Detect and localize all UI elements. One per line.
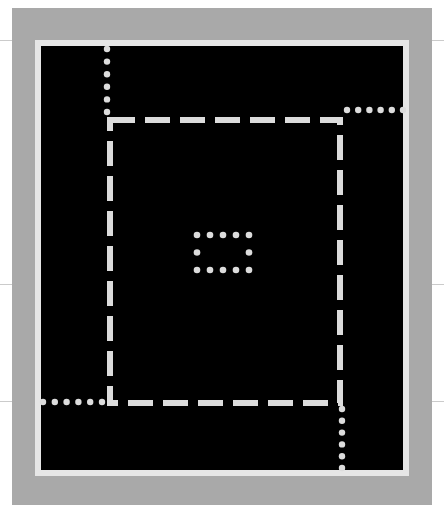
dot xyxy=(104,58,110,64)
dot xyxy=(104,96,110,102)
dot xyxy=(104,84,110,90)
diagram-svg xyxy=(0,0,444,513)
dot xyxy=(246,249,253,256)
dot xyxy=(87,399,93,405)
dot xyxy=(104,71,110,77)
dot xyxy=(339,441,345,447)
dot xyxy=(220,232,227,239)
dot xyxy=(194,267,201,274)
dot xyxy=(366,107,372,113)
dot xyxy=(233,232,240,239)
dot xyxy=(63,399,69,405)
dot xyxy=(389,107,395,113)
dot xyxy=(194,232,201,239)
dot xyxy=(377,107,383,113)
diagram-canvas xyxy=(0,0,444,513)
dot xyxy=(339,418,345,424)
dot xyxy=(339,465,345,471)
dot xyxy=(220,267,227,274)
dot xyxy=(52,399,58,405)
dot xyxy=(344,107,350,113)
dot xyxy=(40,399,46,405)
dot xyxy=(233,267,240,274)
dot xyxy=(99,399,105,405)
dot xyxy=(104,46,110,52)
dot xyxy=(194,249,201,256)
dot xyxy=(104,109,110,115)
dot xyxy=(400,107,406,113)
dot xyxy=(246,232,253,239)
dot xyxy=(207,232,214,239)
dot xyxy=(246,267,253,274)
dot xyxy=(339,453,345,459)
dot xyxy=(207,267,214,274)
dot xyxy=(355,107,361,113)
dot xyxy=(339,429,345,435)
dot xyxy=(75,399,81,405)
dot xyxy=(339,406,345,412)
